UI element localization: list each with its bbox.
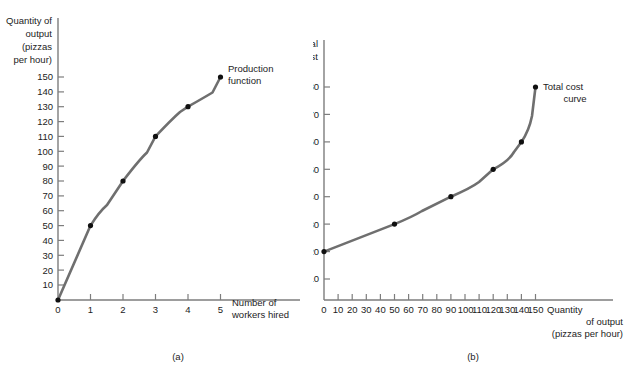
panel-b-chart: €80 70 60 50 40 30 20 10	[313, 0, 627, 375]
x-tick-label: 50	[389, 304, 400, 315]
panel-a-y-tick-labels: 150 140 130 120 110 100 90 80 70 60 50 4…	[37, 71, 53, 290]
y-tick-label: 70	[42, 190, 53, 201]
x-tick-label: 60	[403, 304, 414, 315]
data-point	[153, 134, 158, 139]
y-tick-label: 30	[313, 219, 319, 230]
y-tick-label: 110	[38, 131, 53, 142]
y-tick-label: 70	[313, 109, 319, 120]
x-axis-title-line: (pizzas per hour)	[552, 328, 623, 339]
panel-b-x-tick-labels: 0 10 20 30 40 50 60 70 80 90 100 110 120…	[321, 304, 543, 315]
y-tick-label: €80	[313, 81, 319, 92]
x-tick-label: 90	[446, 304, 457, 315]
panel-a-data-markers	[55, 74, 223, 302]
annotation-line: Total cost	[543, 81, 583, 92]
data-point	[392, 222, 397, 227]
x-tick-label: 80	[432, 304, 443, 315]
x-tick-label: 5	[218, 304, 223, 315]
panel-a-y-ticks	[58, 77, 64, 285]
y-tick-label: 30	[42, 250, 53, 261]
panel-b-curve-annotation: Total cost curve	[543, 81, 587, 104]
y-tick-label: 150	[37, 71, 53, 82]
annotation-line: function	[228, 75, 261, 86]
x-axis-title-line: of output	[586, 316, 623, 327]
x-tick-label: 4	[185, 304, 190, 315]
y-tick-label: 130	[37, 101, 53, 112]
x-tick-label: 20	[347, 304, 358, 315]
data-point	[519, 139, 524, 144]
y-tick-label: 90	[42, 161, 53, 172]
y-tick-label: 20	[313, 246, 319, 257]
panel-a-y-axis-title: Quantity of output (pizzas per hour)	[6, 15, 52, 65]
x-axis-title-line: Quantity	[547, 304, 583, 315]
x-tick-label: 150	[528, 304, 544, 315]
data-point	[491, 167, 496, 172]
y-axis-title-line: Quantity of	[6, 15, 52, 26]
panel-a-caption: (a)	[172, 351, 184, 362]
annotation-line: curve	[563, 93, 586, 104]
y-tick-label: 10	[313, 273, 319, 284]
x-tick-label: 0	[55, 304, 60, 315]
panel-a-production-function-curve	[58, 77, 221, 300]
data-point	[448, 194, 453, 199]
y-tick-label: 40	[313, 191, 319, 202]
y-tick-label: 40	[42, 235, 53, 246]
data-point	[185, 104, 190, 109]
y-tick-label: 20	[42, 265, 53, 276]
x-axis-title-line: Number of	[232, 297, 277, 308]
y-tick-label: 80	[42, 175, 53, 186]
y-tick-label: 10	[42, 279, 53, 290]
figure-container: 150 140 130 120 110 100 90 80 70 60 50 4…	[0, 0, 627, 375]
panel-b-x-ticks	[338, 294, 535, 300]
x-tick-label: 40	[375, 304, 386, 315]
panel-b-data-markers	[321, 84, 538, 254]
x-tick-label: 70	[417, 304, 428, 315]
y-tick-label: 140	[37, 86, 53, 97]
data-point	[55, 297, 60, 302]
panel-b-caption: (b)	[467, 351, 479, 362]
panel-b-total-cost-curve	[324, 87, 536, 252]
annotation-line: Production	[228, 63, 273, 74]
y-axis-title-line: per hour)	[13, 54, 52, 65]
panel-a-curve-annotation: Production function	[228, 63, 273, 86]
data-point	[88, 223, 93, 228]
data-point	[533, 84, 538, 89]
data-point	[321, 249, 326, 254]
panel-b-x-axis-title: Quantity of output (pizzas per hour)	[547, 304, 623, 339]
x-tick-label: 3	[153, 304, 158, 315]
y-axis-title-line: cost	[313, 51, 318, 62]
y-axis-title-line: Total	[313, 38, 318, 49]
y-tick-label: 100	[37, 146, 53, 157]
panel-a-chart: 150 140 130 120 110 100 90 80 70 60 50 4…	[0, 0, 313, 375]
panel-a-x-tick-labels: 0 1 2 3 4 5	[55, 304, 223, 315]
panel-a-production-function: 150 140 130 120 110 100 90 80 70 60 50 4…	[0, 0, 313, 375]
panel-b-y-tick-labels: €80 70 60 50 40 30 20 10	[313, 81, 319, 284]
y-tick-label: 50	[42, 220, 53, 231]
data-point	[120, 178, 125, 183]
y-tick-label: 60	[42, 205, 53, 216]
y-axis-title-line: output	[26, 28, 53, 39]
y-tick-label: 50	[313, 164, 319, 175]
y-tick-label: 120	[37, 116, 53, 127]
x-tick-label: 0	[321, 304, 326, 315]
x-tick-label: 1	[88, 304, 93, 315]
y-tick-label: 60	[313, 136, 319, 147]
x-axis-title-line: workers hired	[231, 309, 289, 320]
panel-a-x-ticks	[91, 294, 221, 300]
x-tick-label: 30	[361, 304, 372, 315]
x-tick-label: 2	[120, 304, 125, 315]
data-point	[218, 74, 223, 79]
x-tick-label: 10	[333, 304, 344, 315]
panel-b-y-axis-title: Total cost	[313, 38, 318, 62]
panel-b-total-cost: €80 70 60 50 40 30 20 10	[313, 0, 627, 375]
y-axis-title-line: (pizzas	[22, 41, 52, 52]
